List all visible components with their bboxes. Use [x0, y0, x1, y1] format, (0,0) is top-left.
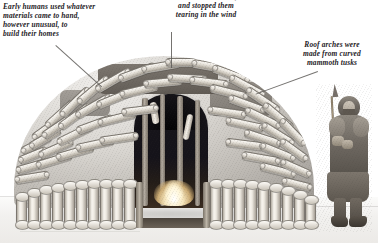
base-bone	[64, 183, 75, 228]
doorway-frame-post	[203, 182, 210, 228]
base-bone	[112, 181, 123, 228]
base-bone	[305, 197, 316, 228]
base-bone	[124, 181, 135, 228]
base-bone	[40, 187, 51, 228]
base-bone	[258, 183, 269, 228]
tusks-caption: Roof arches were made from curved mammot…	[288, 40, 376, 67]
leader-line-hides	[171, 32, 172, 68]
parka-shoulder	[353, 117, 369, 137]
base-bone	[76, 182, 87, 228]
spear-tip-icon	[332, 84, 339, 97]
parka-skirt	[327, 172, 369, 202]
base-bone	[210, 181, 221, 228]
base-bone	[270, 185, 281, 228]
snow-contour-line	[20, 231, 140, 232]
mammoth-bone-hut	[14, 56, 314, 228]
interior-post	[195, 100, 200, 206]
doorway-threshold	[136, 218, 210, 228]
materials-caption: Early humans used whatever materials cam…	[3, 2, 123, 38]
base-bone	[294, 192, 305, 228]
hunter-boot	[331, 216, 348, 227]
base-bone	[28, 190, 39, 228]
ice-age-hunter	[316, 84, 372, 232]
hunter-boot	[349, 216, 367, 227]
parka-shoulder	[329, 117, 345, 137]
base-bone	[234, 181, 245, 228]
hides-caption: down animal hides, and stopped them tear…	[150, 0, 262, 19]
base-bone	[88, 181, 99, 228]
base-bone	[222, 181, 233, 228]
base-bone	[282, 188, 293, 228]
illustration-canvas: Early humans used whatever materials cam…	[0, 0, 378, 243]
base-bone	[100, 181, 111, 228]
base-bone	[246, 182, 257, 228]
base-bone	[16, 194, 27, 228]
doorway-frame-post	[136, 182, 143, 228]
base-bone	[52, 185, 63, 228]
hunter-hand	[342, 140, 353, 149]
roof-bone	[100, 131, 139, 145]
hearth-fire-core	[164, 180, 184, 202]
